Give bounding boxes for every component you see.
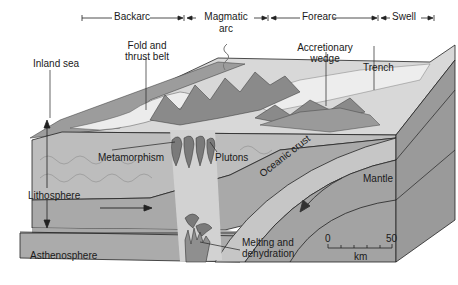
label-metamorphism: Metamorphism (98, 152, 164, 163)
label-trench: Trench (363, 62, 394, 73)
scale-unit: km (354, 251, 367, 262)
label-fold-thrust-line2: thrust belt (120, 51, 174, 62)
zone-swell: Swell (392, 11, 416, 22)
label-accretionary-wedge: Accretionary (292, 42, 358, 53)
label-accretionary-wedge-line2: wedge (292, 53, 358, 64)
zone-backarc: Backarc (114, 11, 150, 22)
zone-magmatic-arc: Magmatic (200, 11, 252, 22)
label-mantle: Mantle (363, 173, 393, 184)
label-melting-line2: dehydration (242, 248, 294, 259)
zone-forearc: Forearc (302, 11, 336, 22)
zone-magmatic-arc-line2: arc (200, 23, 252, 34)
label-melting: Melting and (242, 237, 294, 248)
label-lithosphere: Lithosphere (28, 190, 80, 201)
label-plutons: Plutons (215, 152, 248, 163)
scale-max: 50 (386, 233, 397, 244)
label-asthenosphere: Asthenosphere (30, 250, 97, 261)
label-inland-sea: Inland sea (33, 58, 79, 69)
scale-min: 0 (325, 233, 331, 244)
label-fold-thrust: Fold and (120, 40, 174, 51)
